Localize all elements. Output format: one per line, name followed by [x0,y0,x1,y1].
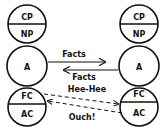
right-fc-label: FC [133,90,144,99]
hee-hee-label: Hee-Hee [68,85,107,94]
left-adult-circle: A [7,46,47,86]
transaction-facts-right: Facts [48,50,105,62]
left-parent-circle: CP NP [8,5,46,43]
left-cp-label: CP [21,13,33,22]
right-parent-circle: CP NP [120,5,158,43]
left-np-label: NP [21,30,34,39]
right-np-label: NP [133,30,146,39]
ego-state-diagram: CP NP A FC AC CP NP A FC AC Facts Facts … [0,0,167,129]
right-a-label: A [136,63,143,72]
right-ac-label: AC [133,109,145,118]
facts-label-1: Facts [62,50,86,59]
left-ac-label: AC [21,110,33,119]
left-fc-label: FC [21,92,32,101]
left-child-circle: FC AC [8,88,46,126]
ouch-label: Ouch! [69,113,96,122]
right-adult-circle: A [119,46,159,86]
transaction-facts-left: Facts [64,70,118,82]
transaction-hee-hee: Hee-Hee [44,85,118,104]
left-a-label: A [24,63,31,72]
right-child-circle: FC AC [120,88,158,126]
right-cp-label: CP [133,13,145,22]
facts-label-2: Facts [72,73,96,82]
transaction-ouch: Ouch! [48,101,122,122]
